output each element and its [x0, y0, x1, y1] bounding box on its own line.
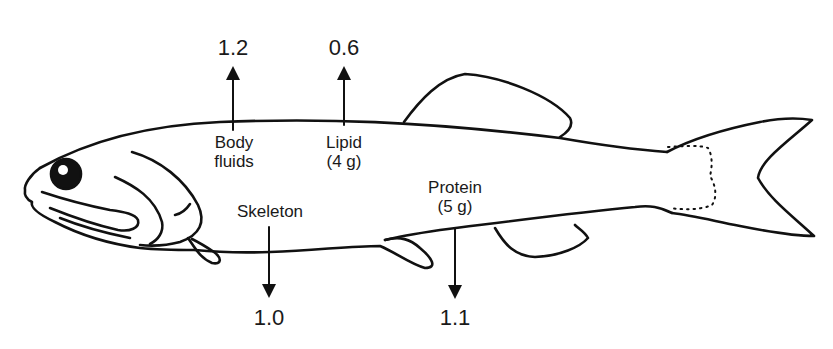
- arrowhead-down-icon: [262, 284, 276, 298]
- dorsal-fin: [404, 74, 571, 137]
- anal-fin: [195, 238, 432, 268]
- arrowhead-up-icon: [226, 66, 240, 80]
- lipid-label: Lipid (4 g): [312, 134, 376, 171]
- lipid-label-line1: Lipid: [312, 134, 376, 153]
- jaw-line: [42, 192, 138, 231]
- body-fluids-value: 1.2: [211, 36, 255, 60]
- skeleton-label: Skeleton: [222, 203, 318, 222]
- arrowhead-up-icon: [337, 66, 351, 80]
- skeleton-label-line1: Skeleton: [222, 203, 318, 222]
- gill-line: [115, 177, 162, 244]
- body-fluids-label-line2: fluids: [198, 153, 270, 172]
- gill-notch: [175, 204, 190, 215]
- protein-label-line2: (5 g): [413, 198, 497, 217]
- protein-value: 1.1: [433, 306, 477, 330]
- fish-illustration: [0, 0, 833, 349]
- body-fluids-label-line1: Body: [198, 134, 270, 153]
- body-fluids-label: Body fluids: [198, 134, 270, 171]
- protein-label-line1: Protein: [413, 179, 497, 198]
- peduncle-dotted: [668, 146, 715, 209]
- eye-highlight: [58, 165, 68, 175]
- fish-diagram: 1.2 0.6 1.0 1.1 Body fluids Lipid (4 g) …: [0, 0, 833, 349]
- lipid-value: 0.6: [322, 36, 366, 60]
- pelvic-fin: [495, 225, 588, 257]
- protein-label: Protein (5 g): [413, 179, 497, 216]
- caudal-fin: [667, 119, 814, 236]
- arrowhead-down-icon: [448, 285, 462, 299]
- skeleton-value: 1.0: [247, 306, 291, 330]
- gill-cover: [132, 152, 201, 246]
- lipid-label-line2: (4 g): [312, 153, 376, 172]
